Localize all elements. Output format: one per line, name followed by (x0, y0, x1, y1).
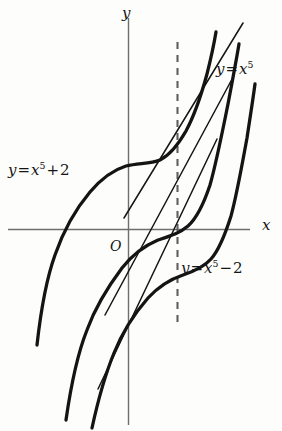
curve-y-equals-x5 (66, 44, 239, 420)
y-axis-label: y (122, 6, 130, 21)
curve-label-equals: = (189, 259, 204, 277)
curve-label-exponent: 5 (248, 59, 254, 70)
x-axis-label: x (262, 218, 270, 233)
curve-label-y-equals-x5: y=x5 (216, 62, 253, 77)
curve-label-y-equals-x5-plus-2: y=x5+2 (8, 163, 70, 178)
graph-figure: y=x5+2 y=x5 y=x5−2 x y O (0, 0, 282, 431)
curve-label-base: x (31, 161, 39, 179)
curve-label-base: x (204, 259, 212, 277)
curve-label-base: x (239, 60, 247, 78)
axes-group (8, 18, 250, 425)
curve-label-y-equals-x5-minus-2: y=x5−2 (181, 261, 243, 276)
curve-label-equals: = (16, 161, 31, 179)
curve-label-operator: − (218, 259, 233, 277)
curve-label-constant: 2 (233, 259, 243, 277)
curve-label-constant: 2 (60, 161, 70, 179)
curve-label-equals: = (224, 60, 239, 78)
curve-y-equals-x5-plus-2 (37, 32, 216, 345)
origin-label: O (110, 239, 121, 253)
curve-label-operator: + (45, 161, 60, 179)
